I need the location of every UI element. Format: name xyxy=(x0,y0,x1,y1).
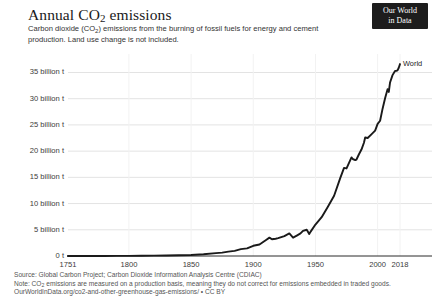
footer-note-part1: Note: CO xyxy=(14,280,41,287)
owid-chart: Annual CO2 emissions Carbon dioxide (CO2… xyxy=(0,0,432,299)
x-tick-label: 1850 xyxy=(183,260,200,269)
footer-note-part2: emissions are measured on a production b… xyxy=(44,280,390,287)
plot-area: 0 t5 billion t10 billion t15 billion t20… xyxy=(0,0,432,299)
x-tick-label: 1950 xyxy=(307,260,324,269)
footer-source: Source: Global Carbon Project; Carbon Di… xyxy=(14,271,426,280)
x-axis-tick-labels: 1751180018501900195020002018 xyxy=(0,0,432,299)
x-tick-label: 1751 xyxy=(60,260,77,269)
series-label-world: World xyxy=(403,59,422,68)
footer-license-link[interactable]: OurWorldInData.org/co2-and-other-greenho… xyxy=(14,288,426,297)
x-tick-label: 1900 xyxy=(245,260,262,269)
x-tick-label: 2000 xyxy=(369,260,386,269)
x-tick-label: 2018 xyxy=(392,260,409,269)
footer-note-subscript: 2 xyxy=(41,282,44,288)
footer-note: Note: CO2 emissions are measured on a pr… xyxy=(14,280,426,289)
chart-footer: Source: Global Carbon Project; Carbon Di… xyxy=(14,271,426,297)
x-tick-label: 1800 xyxy=(120,260,137,269)
